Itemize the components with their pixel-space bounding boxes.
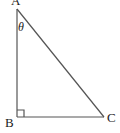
vertex-label-c: C: [107, 110, 116, 125]
vertex-label-a: A: [11, 0, 21, 8]
edge-ac: [17, 9, 104, 117]
triangle-edges: [17, 9, 104, 117]
vertex-label-b: B: [5, 115, 14, 130]
angle-label-theta: θ: [18, 20, 24, 34]
triangle-diagram: A B C θ: [0, 0, 120, 133]
right-angle-marker: [17, 110, 24, 117]
